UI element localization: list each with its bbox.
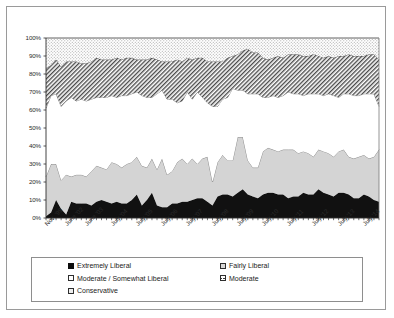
legend-label: Fairly Liberal	[229, 262, 269, 269]
solid-black-swatch-icon	[68, 263, 74, 269]
legend-row: Moderate / Somewhat Liberal Moderate	[32, 275, 362, 288]
white-swatch-icon	[68, 275, 74, 281]
y-axis-tick-label: 80%	[15, 70, 41, 77]
plot-area: 100%90%80%70%60%50%40%30%20%10%0% Nov. '…	[7, 7, 387, 247]
y-axis-tick-label: 0%	[15, 214, 41, 221]
legend-item-conservative[interactable]: Conservative	[68, 287, 118, 294]
legend-item-moderate-somewhat-liberal[interactable]: Moderate / Somewhat Liberal	[68, 275, 168, 282]
legend-label: Moderate	[229, 275, 259, 282]
y-axis-tick-label: 70%	[15, 88, 41, 95]
y-axis-tick-label: 40%	[15, 142, 41, 149]
y-axis-tick-label: 20%	[15, 178, 41, 185]
dotted-swatch-icon	[68, 288, 74, 294]
legend-item-extremely-liberal[interactable]: Extremely Liberal	[68, 262, 131, 269]
hatch-swatch-icon	[220, 275, 226, 281]
y-axis-tick-label: 50%	[15, 124, 41, 131]
legend-row: Conservative	[32, 287, 362, 300]
light-gray-swatch-icon	[220, 263, 226, 269]
legend-label: Extremely Liberal	[77, 262, 131, 269]
y-axis-tick-label: 100%	[15, 34, 41, 41]
legend-label: Conservative	[77, 287, 118, 294]
y-axis-tick-label: 90%	[15, 52, 41, 59]
y-axis-tick-label: 10%	[15, 196, 41, 203]
legend-row: Extremely Liberal Fairly Liberal	[32, 262, 362, 275]
chart-frame: 100%90%80%70%60%50%40%30%20%10%0% Nov. '…	[6, 6, 386, 310]
legend-item-fairly-liberal[interactable]: Fairly Liberal	[220, 262, 269, 269]
legend-item-moderate[interactable]: Moderate	[220, 275, 259, 282]
chart-legend: Extremely Liberal Fairly Liberal Moderat…	[31, 257, 363, 302]
y-axis-tick-label: 60%	[15, 106, 41, 113]
legend-label: Moderate / Somewhat Liberal	[77, 275, 168, 282]
y-axis-tick-label: 30%	[15, 160, 41, 167]
